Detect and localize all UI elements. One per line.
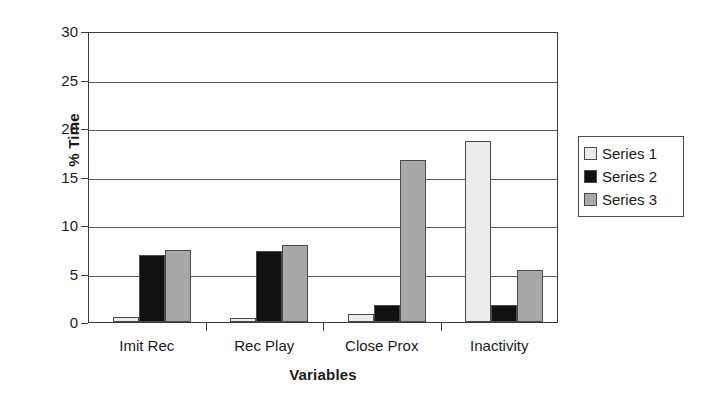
- legend-label: Series 3: [602, 192, 657, 207]
- bar-group: [465, 33, 543, 322]
- plot-area: [88, 32, 558, 323]
- legend-swatch-icon: [584, 193, 597, 206]
- x-axis-tick-label: Close Prox: [323, 336, 441, 356]
- y-axis-tick-label: 25: [44, 73, 78, 88]
- legend: Series 1Series 2Series 3: [578, 136, 684, 217]
- y-axis-tick-label: 15: [44, 170, 78, 185]
- bar: [113, 317, 139, 322]
- bar: [517, 270, 543, 322]
- legend-item: Series 2: [584, 165, 683, 188]
- y-axis-tick-mark: [81, 32, 88, 33]
- x-axis-tick-label: Inactivity: [441, 336, 559, 356]
- legend-item: Series 1: [584, 142, 683, 165]
- bar: [374, 305, 400, 322]
- y-axis-tick-mark: [81, 226, 88, 227]
- x-axis-tick-labels: Imit RecRec PlayClose ProxInactivity: [88, 336, 558, 358]
- x-axis-tick-mark: [206, 323, 207, 331]
- legend-label: Series 1: [602, 146, 657, 161]
- y-axis-tick-label: 5: [44, 267, 78, 282]
- bar-group: [113, 33, 191, 322]
- bar: [400, 160, 426, 322]
- y-axis-tick-mark: [81, 129, 88, 130]
- x-axis-tick-label: Imit Rec: [88, 336, 206, 356]
- x-axis-tick-label: Rec Play: [206, 336, 324, 356]
- bar-group: [230, 33, 308, 322]
- y-axis-tick-label: 10: [44, 218, 78, 233]
- bar: [165, 250, 191, 322]
- y-axis-tick-label: 20: [44, 121, 78, 136]
- bar: [491, 305, 517, 322]
- x-axis-tick-mark: [441, 323, 442, 331]
- y-axis-tick-mark: [81, 275, 88, 276]
- bar: [256, 251, 282, 322]
- bar: [465, 141, 491, 322]
- y-axis-tick-label: 30: [44, 24, 78, 39]
- bar: [348, 314, 374, 322]
- bar: [230, 318, 256, 322]
- legend-swatch-icon: [584, 170, 597, 183]
- bar-chart: % Time 051015202530 Imit RecRec PlayClos…: [0, 0, 703, 416]
- y-axis-tick-label: 0: [44, 315, 78, 330]
- y-axis-tick-mark: [81, 323, 88, 324]
- legend-items: Series 1Series 2Series 3: [584, 142, 683, 211]
- legend-swatch-icon: [584, 147, 597, 160]
- legend-label: Series 2: [602, 169, 657, 184]
- x-axis-tick-mark: [323, 323, 324, 331]
- x-axis-title: Variables: [88, 366, 558, 383]
- legend-item: Series 3: [584, 188, 683, 211]
- y-axis-tick-mark: [81, 178, 88, 179]
- bar-group: [348, 33, 426, 322]
- y-axis-tick-mark: [81, 81, 88, 82]
- bar: [282, 245, 308, 322]
- bar: [139, 255, 165, 322]
- y-axis-tick-labels: 051015202530: [44, 32, 78, 323]
